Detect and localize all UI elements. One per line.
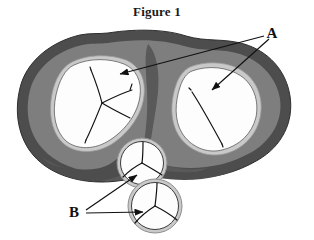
figure-container: Figure 1 — [0, 0, 314, 240]
label-a: A — [267, 25, 278, 41]
anatomical-diagram: A B — [0, 0, 314, 240]
label-b: B — [69, 204, 79, 220]
